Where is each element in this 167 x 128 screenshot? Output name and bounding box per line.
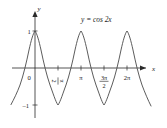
tick-label-3pi-over-2-denominator: 2 xyxy=(102,82,105,89)
x-axis-arrow-icon xyxy=(140,65,146,70)
tick-label-3pi-over-2-numerator: 3π xyxy=(101,74,108,81)
tick-label-3pi-over-2: 3π 2 xyxy=(100,74,109,89)
origin-label: 0 xyxy=(28,74,32,81)
tick-label-pi-over-2: π 2 xyxy=(51,77,66,84)
y-minus-one-label: –1 xyxy=(22,102,30,109)
plot-canvas: y x y = cos 2x 0 1 –1 π 2 π 3π 2 2π xyxy=(0,0,167,128)
tick-label-pi: π xyxy=(79,74,83,81)
tick-label-pi-over-2-denominator: 2 xyxy=(51,79,58,82)
y-one-label: 1 xyxy=(28,28,31,35)
tick-label-2pi: 2π xyxy=(124,74,131,81)
x-axis-label: x xyxy=(151,65,156,73)
y-axis-label: y xyxy=(37,5,42,13)
equation-annotation: y = cos 2x xyxy=(80,15,112,24)
cosine-graph-figure: y x y = cos 2x 0 1 –1 π 2 π 3π 2 2π xyxy=(0,0,167,128)
tick-label-pi-over-2-numerator: π xyxy=(59,79,66,83)
